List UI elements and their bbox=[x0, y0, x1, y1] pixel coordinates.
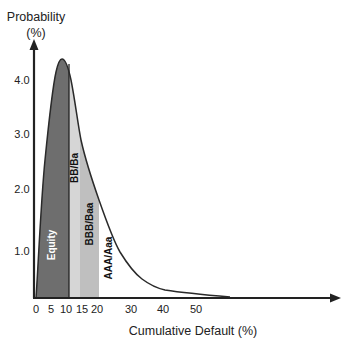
y-tick-label: 2.0 bbox=[14, 183, 29, 195]
x-tick-label: 40 bbox=[157, 303, 169, 315]
band-label-equity: Equity bbox=[46, 229, 57, 260]
x-tick-label: 30 bbox=[125, 303, 137, 315]
y-tick-label: 1.0 bbox=[14, 245, 29, 257]
x-tick-label: 50 bbox=[190, 303, 202, 315]
x-tick-label: 10 bbox=[60, 303, 72, 315]
x-axis-title: Cumulative Default (%) bbox=[129, 324, 258, 338]
y-axis-title: Probability bbox=[7, 10, 66, 24]
credit-loss-distribution-chart: Probability (%) 4.0 3.0 2.0 1.0 0 5 10 1… bbox=[0, 0, 353, 350]
band-label-aaa-aaa: AAA/Aaa bbox=[103, 236, 114, 279]
x-tick-label: 15 bbox=[76, 303, 88, 315]
x-tick-label: 5 bbox=[48, 303, 54, 315]
y-axis-arrow-icon bbox=[30, 39, 39, 50]
y-tick-label: 3.0 bbox=[14, 128, 29, 140]
band-label-bb-ba: BB/Ba bbox=[69, 153, 80, 183]
x-tick-label: 20 bbox=[91, 303, 103, 315]
y-axis-unit: (%) bbox=[26, 26, 45, 40]
band-label-bbb-baa: BBB/Baa bbox=[84, 202, 95, 245]
y-tick-label: 4.0 bbox=[14, 74, 29, 86]
x-tick-label: 0 bbox=[33, 303, 39, 315]
x-axis-arrow-icon bbox=[330, 294, 341, 303]
